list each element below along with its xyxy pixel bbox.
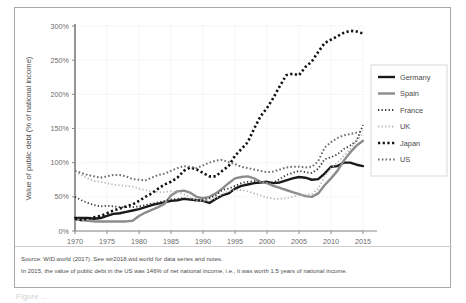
legend-label-japan: Japan [400,139,420,148]
data-series [75,31,363,222]
y-tick-labels: 0%50%100%150%200%250%300% [51,22,75,236]
y-tick-300%: 300% [51,22,70,31]
y-tick-0%: 0% [59,227,70,236]
axes [75,24,377,231]
x-tick-1970: 1970 [67,237,83,246]
x-tick-1985: 1985 [163,237,179,246]
figure-frame: 0%50%100%150%200%250%300% 19701975198019… [14,7,451,288]
x-tick-labels: 1970197519801985199019952000200520102015 [67,231,371,246]
legend-label-france: France [400,106,423,115]
x-tick-1980: 1980 [131,237,147,246]
x-tick-1975: 1975 [99,237,115,246]
y-tick-200%: 200% [51,90,70,99]
source-note: Source: WID.world (2017). See wir2018.wi… [21,256,223,262]
y-axis-title-text: Value of public debt (% of national inco… [24,56,33,200]
x-tick-2010: 2010 [323,237,339,246]
y-axis-title: Value of public debt (% of national inco… [24,56,33,200]
chart-legend[interactable]: GermanySpainFranceUKJapanUS [371,65,447,176]
chart-plot-area: 0%50%100%150%200%250%300% 19701975198019… [15,8,452,248]
figure-caption-partial: Figure ... [16,292,446,303]
legend-label-spain: Spain [400,89,419,98]
gridlines [75,26,363,231]
detail-note: In 2015, the value of public debt in the… [21,268,347,274]
x-tick-1990: 1990 [195,237,211,246]
x-tick-1995: 1995 [227,237,243,246]
legend-label-germany: Germany [400,73,431,82]
x-tick-2015: 2015 [355,237,371,246]
y-tick-150%: 150% [51,124,70,133]
y-tick-50%: 50% [55,192,70,201]
legend-label-us: US [400,155,410,164]
x-tick-2000: 2000 [259,237,275,246]
series-line-spain [75,141,363,222]
line-chart: 0%50%100%150%200%250%300% 19701975198019… [15,8,452,248]
series-line-france [75,125,363,207]
x-tick-2005: 2005 [291,237,307,246]
y-tick-100%: 100% [51,158,70,167]
figure-notes: Source: WID.world (2017). See wir2018.wi… [15,246,452,289]
legend-label-uk: UK [400,122,410,131]
y-tick-250%: 250% [51,56,70,65]
